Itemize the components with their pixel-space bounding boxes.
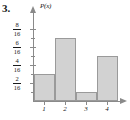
- x-tick-label-2: 2: [58, 105, 72, 113]
- y-tick-label-6-16: 6 16: [6, 40, 28, 55]
- y-tick-label-8-16-denominator: 16: [6, 31, 28, 38]
- y-tick-minor-5: [31, 56, 35, 57]
- histogram-plot: P(x) 2 16 4 16 6 16 8 16: [0, 0, 130, 120]
- histogram-bar-2: [55, 38, 76, 101]
- x-tick-label-1: 1: [37, 105, 51, 113]
- y-tick-label-2-16: 2 16: [6, 76, 28, 91]
- y-axis-label: P(x): [40, 2, 51, 10]
- figure-container: 3. P(x) 2 16 4 16 6 16: [0, 0, 130, 120]
- y-tick-minor-7: [31, 38, 35, 39]
- histogram-bar-3: [76, 92, 97, 101]
- x-tick-label-4: 4: [100, 105, 114, 113]
- y-tick-label-4-16: 4 16: [6, 58, 28, 73]
- y-tick-label-2-16-numerator: 2: [6, 76, 28, 83]
- y-tick-label-6-16-denominator: 16: [6, 49, 28, 56]
- y-tick-4-16: [30, 65, 36, 66]
- x-tick-label-3: 3: [79, 105, 93, 113]
- y-tick-label-6-16-numerator: 6: [6, 40, 28, 47]
- x-axis-arrow-icon: [120, 98, 127, 104]
- y-tick-label-4-16-denominator: 16: [6, 67, 28, 74]
- y-tick-label-4-16-numerator: 4: [6, 58, 28, 65]
- y-tick-6-16: [30, 47, 36, 48]
- y-tick-label-8-16: 8 16: [6, 22, 28, 37]
- histogram-bar-4: [97, 56, 118, 101]
- y-tick-8-16: [30, 29, 36, 30]
- y-axis-arrow-icon: [30, 6, 36, 13]
- y-tick-label-8-16-numerator: 8: [6, 22, 28, 29]
- histogram-bar-1: [34, 74, 55, 101]
- y-tick-label-2-16-denominator: 16: [6, 85, 28, 92]
